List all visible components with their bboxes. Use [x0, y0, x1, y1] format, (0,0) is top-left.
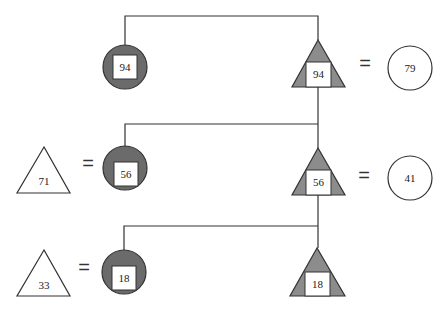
connector-row-2 [125, 124, 318, 146]
outline-triangle: 71 [17, 147, 70, 193]
connector-row-3 [124, 226, 318, 250]
connector-row-1 [125, 16, 318, 45]
outline-triangle: 33 [17, 250, 70, 296]
circle-value: 94 [120, 61, 132, 73]
equals-sign: = [82, 152, 94, 174]
triangle-value: 71 [39, 175, 50, 187]
row-2: 71 = 56 56 = 41 [17, 146, 432, 200]
equals-sign: = [359, 52, 371, 74]
answer-value: 41 [405, 172, 416, 184]
answer-value: 79 [405, 62, 417, 74]
row-3: 33 = 18 18 [17, 248, 345, 296]
triangle-value: 18 [312, 278, 324, 290]
shaded-circle-node: 94 [103, 45, 147, 89]
shaded-circle-node: 56 [103, 146, 147, 190]
triangle-value: 33 [39, 279, 51, 291]
puzzle-diagram: 94 94 = 79 71 = 56 56 = [0, 0, 448, 312]
triangle-value: 94 [313, 68, 325, 80]
equals-sign: = [78, 256, 90, 278]
shaded-circle-node: 18 [102, 250, 146, 294]
shaded-triangle-node: 18 [290, 248, 345, 296]
triangle-value: 56 [313, 176, 325, 188]
answer-circle: 79 [388, 46, 432, 90]
shaded-triangle-node: 94 [292, 40, 345, 87]
equals-sign: = [358, 164, 370, 186]
row-1: 94 94 = 79 [103, 40, 432, 90]
shaded-triangle-node: 56 [292, 148, 345, 195]
answer-circle: 41 [388, 156, 432, 200]
circle-value: 56 [121, 168, 133, 180]
circle-value: 18 [119, 272, 131, 284]
connectors [124, 16, 318, 250]
